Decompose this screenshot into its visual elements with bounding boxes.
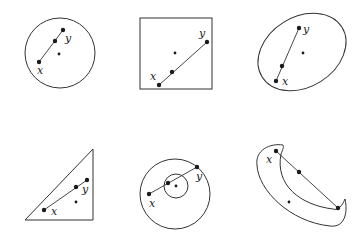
label-y: y bbox=[198, 27, 206, 40]
point-midpoint bbox=[297, 170, 301, 174]
label-x: x bbox=[266, 153, 273, 166]
point-midpoint bbox=[53, 39, 57, 43]
label-y: y bbox=[81, 183, 89, 196]
center-dot bbox=[175, 185, 178, 188]
center-dot bbox=[288, 201, 291, 204]
segment-xy bbox=[149, 167, 197, 194]
panel-circle: x y bbox=[25, 18, 95, 88]
label-x: x bbox=[150, 70, 157, 83]
segment-xy bbox=[276, 28, 299, 81]
label-y: y bbox=[195, 170, 203, 183]
label-y: y bbox=[302, 23, 310, 36]
center-dot bbox=[58, 53, 61, 56]
center-dot bbox=[75, 201, 78, 204]
convexity-diagram: x y x y x y x y bbox=[0, 0, 361, 232]
panel-triangle: x y bbox=[25, 149, 93, 220]
panel-crescent: x bbox=[257, 145, 346, 227]
panel-square: x y bbox=[140, 18, 212, 89]
panel-ellipse: x y bbox=[244, 0, 361, 107]
point-y bbox=[297, 26, 301, 30]
point-midpoint bbox=[170, 70, 174, 74]
label-x: x bbox=[51, 205, 58, 218]
label-x: x bbox=[149, 197, 156, 210]
point-x bbox=[157, 83, 161, 87]
circle-outline bbox=[25, 18, 95, 88]
point-y bbox=[205, 40, 209, 44]
label-y: y bbox=[64, 32, 72, 45]
point-x bbox=[42, 208, 46, 212]
point-midpoint bbox=[280, 64, 284, 68]
segment-xy bbox=[159, 42, 207, 85]
point-midpoint bbox=[166, 181, 170, 185]
label-x: x bbox=[37, 64, 44, 77]
point-y bbox=[85, 178, 89, 182]
point-midpoint bbox=[74, 185, 78, 189]
point-x bbox=[274, 149, 278, 153]
panel-annulus: x y bbox=[140, 159, 210, 229]
point-x bbox=[147, 192, 151, 196]
point-y bbox=[195, 165, 199, 169]
point-y bbox=[336, 206, 340, 210]
center-dot bbox=[174, 52, 177, 55]
point-x bbox=[274, 79, 278, 83]
segment-xy bbox=[39, 30, 63, 62]
label-x: x bbox=[282, 75, 289, 88]
segment-xy bbox=[276, 151, 338, 208]
center-dot bbox=[302, 52, 305, 55]
